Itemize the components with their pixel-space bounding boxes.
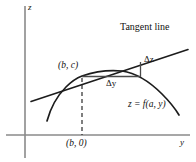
tangent-point-label: (b, c) — [58, 61, 78, 71]
delta-z-label: Δz — [144, 55, 154, 64]
y-axis-label: y — [180, 138, 184, 147]
delta-y-label: Δy — [106, 79, 116, 88]
tangent-line-label: Tangent line — [120, 22, 170, 32]
figure-container: z y Tangent line (b, c) Δz Δy z = f(a, y… — [0, 0, 196, 162]
function-label: z = f(a, y) — [128, 100, 166, 110]
foot-point-label: (b, 0) — [66, 139, 87, 149]
z-axis-label: z — [28, 3, 32, 12]
tangent-line — [31, 50, 188, 102]
